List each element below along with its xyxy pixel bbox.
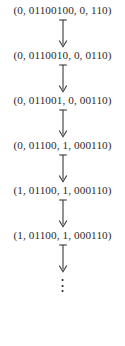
down-arrow-icon (56, 109, 70, 138)
configuration-tuple: (0, 01100, 1, 000110) (13, 139, 111, 153)
configuration-tuple: (0, 0110010, 0, 0110) (13, 49, 111, 63)
transition-arrow (53, 63, 73, 94)
transition-arrow (53, 153, 73, 184)
down-arrow-icon (56, 154, 70, 183)
transition-arrow (53, 18, 73, 49)
down-arrow-icon (56, 19, 70, 48)
configuration-tuple: (0, 01100100, 0, 110) (13, 4, 111, 18)
continuation-ellipsis-container: ⋮ (55, 274, 70, 296)
configuration-tuple: (1, 01100, 1, 000110) (13, 229, 111, 243)
down-arrow-icon (56, 64, 70, 93)
transition-arrow (53, 108, 73, 139)
configuration-tuple: (0, 011001, 0, 00110) (13, 94, 111, 108)
configuration-tuple: (1, 01100, 1, 000110) (13, 184, 111, 198)
transition-arrow (53, 198, 73, 229)
down-arrow-icon (56, 244, 70, 273)
configuration-sequence: (0, 01100100, 0, 110) (0, 0110010, 0, 01… (0, 0, 125, 346)
down-arrow-icon (56, 199, 70, 228)
transition-arrow (53, 243, 73, 274)
vertical-ellipsis-icon: ⋮ (55, 278, 70, 293)
